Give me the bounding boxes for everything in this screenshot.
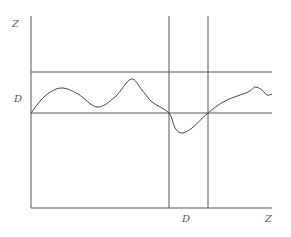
diagram-canvas: [0, 0, 291, 237]
profile-curve: [31, 79, 272, 133]
level-label-left: D: [14, 94, 22, 104]
x-axis-label: Z: [265, 214, 272, 224]
level-label-bottom: D: [182, 214, 190, 224]
y-axis-label: Z: [12, 19, 19, 29]
